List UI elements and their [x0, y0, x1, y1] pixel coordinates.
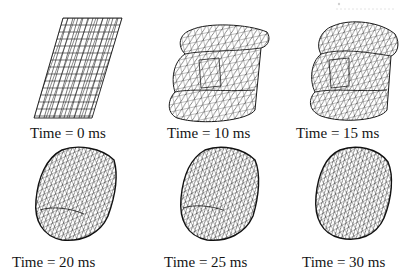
panel-t15 [303, 18, 403, 124]
caption-t10: Time = 10 ms [167, 125, 250, 142]
mesh-folded-icon [163, 20, 275, 124]
mesh-folded-icon [303, 18, 403, 124]
panel-t0 [30, 14, 130, 124]
panel-t10 [163, 20, 275, 124]
mesh-inflated-icon [312, 144, 396, 244]
caption-t25: Time = 25 ms [164, 254, 247, 271]
caption-t30: Time = 30 ms [302, 254, 385, 271]
figure: Time = 0 ms Time = 10 ms [0, 0, 404, 279]
mesh-inflated-icon [177, 144, 263, 244]
corner-artifact [336, 2, 396, 12]
panel-t30 [312, 144, 396, 244]
mesh-inflated-icon [32, 144, 122, 244]
panel-t25 [177, 144, 263, 244]
panel-t20 [32, 144, 122, 244]
caption-t20: Time = 20 ms [12, 254, 95, 271]
mesh-flat-icon [30, 14, 130, 124]
caption-t0: Time = 0 ms [30, 125, 106, 142]
caption-t15: Time = 15 ms [296, 125, 379, 142]
